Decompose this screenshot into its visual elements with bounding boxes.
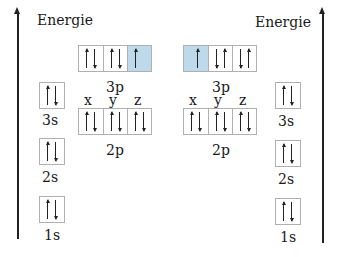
energy-label-right: Energie <box>255 15 311 29</box>
spin-down-arrow-icon <box>94 49 95 68</box>
right-1s-box <box>276 199 300 224</box>
left-2p-z-label: z <box>134 93 141 107</box>
spin-up-arrow-icon <box>283 202 284 221</box>
spin-down-arrow-icon <box>55 142 56 161</box>
spin-up-arrow-icon <box>47 86 48 105</box>
spin-up-arrow-icon <box>86 112 87 131</box>
spin-down-arrow-icon <box>291 202 292 221</box>
left-3s-orbital-group <box>39 82 65 109</box>
energy-axis-left <box>17 13 19 239</box>
spin-down-arrow-icon <box>143 112 144 131</box>
right-3p-orbital-group <box>183 45 257 72</box>
energy-axis-right <box>322 13 324 243</box>
spin-up-arrow-icon <box>47 142 48 161</box>
spin-up-arrow-icon <box>197 49 198 68</box>
right-2p-label: 2p <box>212 143 230 157</box>
left-2p-x-box <box>79 109 103 134</box>
spin-up-arrow-icon <box>86 49 87 68</box>
spin-up-arrow-icon <box>248 49 249 68</box>
right-2p-z-label: z <box>239 93 246 107</box>
left-3p-orbital-group <box>78 45 152 72</box>
spin-down-arrow-icon <box>119 112 120 131</box>
spin-down-arrow-icon <box>240 49 241 68</box>
spin-down-arrow-icon <box>291 144 292 163</box>
spin-down-arrow-icon <box>291 86 292 105</box>
spin-up-arrow-icon <box>135 112 136 131</box>
left-2s-orbital-group <box>39 138 65 165</box>
spin-up-arrow-icon <box>283 144 284 163</box>
spin-down-arrow-icon <box>94 112 95 131</box>
spin-up-arrow-icon <box>283 86 284 105</box>
right-3s-box <box>276 83 300 108</box>
spin-up-arrow-icon <box>240 112 241 131</box>
right-3p-x-box-highlighted <box>184 46 208 71</box>
right-2s-orbital-group <box>275 140 301 167</box>
right-2s-label: 2s <box>278 172 294 186</box>
right-2p-y-box <box>208 109 232 134</box>
spin-up-arrow-icon <box>224 49 225 68</box>
left-3s-box <box>40 83 64 108</box>
spin-down-arrow-icon <box>119 49 120 68</box>
spin-down-arrow-icon <box>216 49 217 68</box>
right-2p-orbital-group <box>183 108 257 135</box>
left-1s-label: 1s <box>44 228 60 242</box>
left-2p-y-box <box>103 109 127 134</box>
spin-up-arrow-icon <box>191 112 192 131</box>
left-3s-label: 3s <box>42 113 58 127</box>
right-2p-z-box <box>232 109 256 134</box>
right-2p-x-label: x <box>189 93 197 107</box>
left-2p-orbital-group <box>78 108 152 135</box>
spin-down-arrow-icon <box>248 112 249 131</box>
spin-up-arrow-icon <box>111 112 112 131</box>
right-1s-label: 1s <box>280 230 296 244</box>
spin-down-arrow-icon <box>224 112 225 131</box>
right-3p-y-box <box>208 46 232 71</box>
right-2s-box <box>276 141 300 166</box>
right-3p-z-box <box>232 46 256 71</box>
left-1s-box <box>40 197 64 222</box>
left-3p-x-box <box>79 46 103 71</box>
right-3s-orbital-group <box>275 82 301 109</box>
spin-down-arrow-icon <box>55 86 56 105</box>
right-2p-x-box <box>184 109 208 134</box>
left-2p-x-label: x <box>84 93 92 107</box>
spin-down-arrow-icon <box>55 200 56 219</box>
right-3s-label: 3s <box>278 114 294 128</box>
right-2p-y-label: y <box>214 93 222 107</box>
spin-up-arrow-icon <box>216 112 217 131</box>
spin-up-arrow-icon <box>47 200 48 219</box>
left-1s-orbital-group <box>39 196 65 223</box>
spin-up-arrow-icon <box>135 49 136 68</box>
right-1s-orbital-group <box>275 198 301 225</box>
spin-down-arrow-icon <box>199 112 200 131</box>
left-3p-y-box <box>103 46 127 71</box>
energy-label-left: Energie <box>37 13 93 27</box>
left-3p-z-box-highlighted <box>127 46 151 71</box>
left-2s-box <box>40 139 64 164</box>
left-2p-z-box <box>127 109 151 134</box>
left-2p-y-label: y <box>109 93 117 107</box>
left-2s-label: 2s <box>42 170 58 184</box>
left-2p-label: 2p <box>106 143 124 157</box>
spin-up-arrow-icon <box>111 49 112 68</box>
